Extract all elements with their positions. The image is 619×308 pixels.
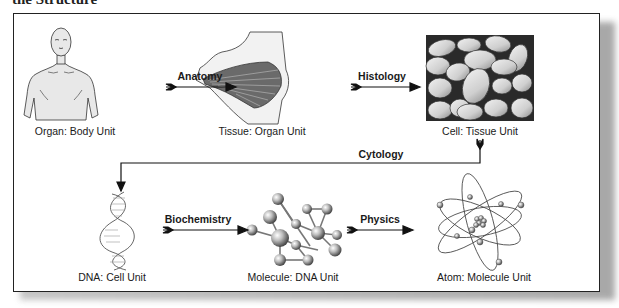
cells-icon (426, 34, 534, 121)
diagram-canvas (0, 0, 619, 308)
arrow-histology (351, 83, 420, 91)
node-label-tissue: Tissue: Organ Unit (218, 125, 305, 137)
edge-label-physics: Physics (360, 213, 400, 225)
arrow-biochemistry (163, 226, 248, 234)
node-label-molecule: Molecule: DNA Unit (247, 271, 338, 283)
edge-label-histology: Histology (358, 70, 406, 82)
node-label-atom: Atom: Molecule Unit (437, 271, 531, 283)
arrow-physics (347, 226, 413, 234)
node-label-organ: Organ: Body Unit (35, 125, 116, 137)
arrow-anatomy (166, 83, 236, 91)
node-label-dna: DNA: Cell Unit (78, 271, 146, 283)
molecule-icon (247, 193, 343, 266)
atom-icon (431, 170, 529, 273)
edge-label-biochemistry: Biochemistry (165, 213, 232, 225)
node-label-cell: Cell: Tissue Unit (442, 125, 518, 137)
edge-label-cytology: Cytology (359, 148, 404, 160)
edge-label-anatomy: Anatomy (178, 70, 223, 82)
arrow-cytology (117, 139, 483, 191)
dna-helix-icon (100, 192, 134, 270)
human-torso-icon (24, 28, 98, 120)
